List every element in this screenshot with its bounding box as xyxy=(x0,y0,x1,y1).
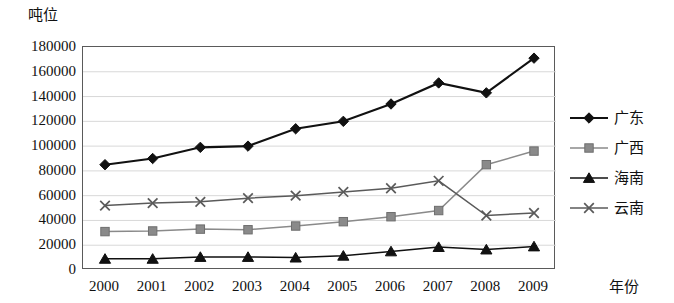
series-line xyxy=(105,181,534,216)
y-axis-tick-label: 0 xyxy=(0,262,76,277)
data-point-diamond xyxy=(100,159,110,169)
x-axis-tick-labels: 2000200120022003200420052006200720082009 xyxy=(0,278,674,300)
y-axis-tick-labels: 0200004000060000800001000001200001400001… xyxy=(0,0,76,303)
legend-marker-x-icon xyxy=(568,194,610,222)
data-point-square xyxy=(482,160,490,168)
y-axis-tick-label: 20000 xyxy=(0,237,76,252)
legend-label: 广西 xyxy=(614,138,644,158)
data-point-square xyxy=(291,222,299,230)
line-chart: 吨位 0200004000060000800001000001200001400… xyxy=(0,0,674,303)
data-point-diamond xyxy=(147,153,157,163)
y-axis-tick-label: 160000 xyxy=(0,64,76,79)
data-point-square xyxy=(585,144,593,152)
legend-label: 云南 xyxy=(614,198,644,218)
legend-item-广西[interactable]: 广西 xyxy=(568,134,672,162)
data-point-square xyxy=(244,226,252,234)
series-1 xyxy=(101,147,538,236)
legend-label: 海南 xyxy=(614,168,644,188)
chart-legend: 广东广西海南云南 xyxy=(568,104,672,228)
y-axis-tick-label: 40000 xyxy=(0,212,76,227)
y-axis-tick-label: 180000 xyxy=(0,39,76,54)
y-axis-tick-label: 120000 xyxy=(0,113,76,128)
series-0 xyxy=(100,53,539,170)
data-point-diamond xyxy=(290,124,300,134)
data-point-diamond xyxy=(195,142,205,152)
legend-marker-square-icon xyxy=(568,134,610,162)
series-line xyxy=(105,151,534,232)
data-point-square xyxy=(101,227,109,235)
data-point-square xyxy=(196,225,204,233)
legend-item-云南[interactable]: 云南 xyxy=(568,194,672,222)
data-point-diamond xyxy=(584,113,594,123)
y-axis-tick-label: 60000 xyxy=(0,188,76,203)
legend-item-广东[interactable]: 广东 xyxy=(568,104,672,132)
data-point-square xyxy=(434,206,442,214)
legend-marker-triangle-icon xyxy=(568,164,610,192)
series-line xyxy=(105,58,534,165)
data-point-diamond xyxy=(338,116,348,126)
data-point-square xyxy=(339,217,347,225)
series-layer xyxy=(99,53,539,263)
y-axis-tick-label: 100000 xyxy=(0,138,76,153)
x-axis-tick-label: 2009 xyxy=(505,278,561,294)
series-3 xyxy=(100,176,539,220)
y-axis-tick-label: 140000 xyxy=(0,89,76,104)
legend-marker-diamond-icon xyxy=(568,104,610,132)
plot-area xyxy=(82,46,555,269)
x-axis-title: 年份 xyxy=(609,279,639,295)
data-point-square xyxy=(387,213,395,221)
plot-svg xyxy=(83,47,556,270)
data-point-diamond xyxy=(243,141,253,151)
data-point-square xyxy=(530,147,538,155)
data-point-diamond xyxy=(386,99,396,109)
series-2 xyxy=(99,241,539,263)
legend-label: 广东 xyxy=(614,108,644,128)
series-line xyxy=(105,246,534,258)
legend-item-海南[interactable]: 海南 xyxy=(568,164,672,192)
y-axis-tick-label: 80000 xyxy=(0,163,76,178)
data-point-square xyxy=(148,227,156,235)
data-point-diamond xyxy=(433,78,443,88)
